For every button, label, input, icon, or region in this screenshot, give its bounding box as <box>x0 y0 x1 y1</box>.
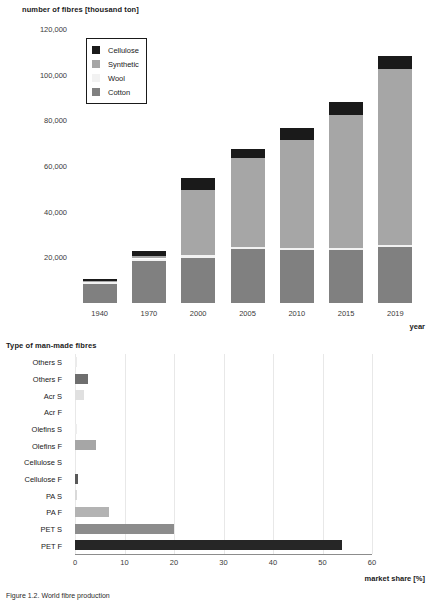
y-tick-label: 20,000 <box>1 253 67 262</box>
bar-segment-wool[interactable] <box>231 247 265 250</box>
bar-segment-cellulose[interactable] <box>378 56 412 69</box>
legend-item-wool: Wool <box>92 71 139 85</box>
bar-row[interactable] <box>75 504 372 521</box>
bar-segment-cotton[interactable] <box>83 284 117 303</box>
bar-row[interactable] <box>75 537 372 554</box>
chart-legend: CelluloseSyntheticWoolCotton <box>86 38 147 104</box>
bar-segment-synthetic[interactable] <box>280 140 314 247</box>
bar-segment-cotton[interactable] <box>181 258 215 303</box>
x-axis-title-market-share: market share [%] <box>365 574 425 583</box>
stacked-bar[interactable] <box>378 56 412 303</box>
bar-pa-s[interactable] <box>75 490 77 500</box>
category-label: Acr S <box>0 391 62 400</box>
bar-segment-cellulose[interactable] <box>231 149 265 158</box>
bar-acr-s[interactable] <box>75 390 84 400</box>
bar-row[interactable] <box>75 521 372 538</box>
bar-segment-cellulose[interactable] <box>280 128 314 141</box>
y-tick-label: 40,000 <box>1 207 67 216</box>
x-tick-label: 2005 <box>225 309 271 318</box>
bar-segment-synthetic[interactable] <box>329 115 363 247</box>
bar-segment-cotton[interactable] <box>329 250 363 303</box>
bar-segment-wool[interactable] <box>181 255 215 258</box>
bar-row[interactable] <box>75 487 372 504</box>
bar-segment-cotton[interactable] <box>132 261 166 303</box>
x-axis-line <box>75 554 372 555</box>
category-label: PA S <box>0 491 62 500</box>
bar-segment-synthetic[interactable] <box>378 69 412 245</box>
bar-row[interactable] <box>75 471 372 488</box>
category-label: Olefins S <box>0 425 62 434</box>
category-label: Acr F <box>0 408 62 417</box>
horizontal-bar-chart-manmade-fibres: Type of man-made fibres market share [%]… <box>0 336 441 586</box>
bar-segment-cotton[interactable] <box>378 247 412 303</box>
stacked-bar[interactable] <box>181 178 215 303</box>
bar-segment-cellulose[interactable] <box>329 102 363 116</box>
x-tick-label: 20 <box>154 558 194 567</box>
bar-row[interactable] <box>75 421 372 438</box>
stacked-bar-chart-fibre-production: number of fibres [thousand ton] 20,00040… <box>0 0 441 336</box>
x-tick-label: 60 <box>352 558 392 567</box>
bar-pet-s[interactable] <box>75 524 174 534</box>
bar-pa-f[interactable] <box>75 507 109 517</box>
bar-segment-wool[interactable] <box>378 245 412 248</box>
legend-item-synthetic: Synthetic <box>92 57 139 71</box>
bar-segment-wool[interactable] <box>83 282 117 285</box>
legend-label: Cellulose <box>108 46 139 55</box>
legend-swatch-icon <box>92 60 100 68</box>
bar-row[interactable] <box>75 404 372 421</box>
bar-olefins-f[interactable] <box>75 440 96 450</box>
stacked-bar[interactable] <box>132 251 166 303</box>
bar-pet-f[interactable] <box>75 540 342 550</box>
bar-segment-cotton[interactable] <box>280 250 314 303</box>
category-label: Cellulose F <box>0 475 62 484</box>
bar-cellulose-f[interactable] <box>75 474 78 484</box>
bar-segment-synthetic[interactable] <box>83 281 117 282</box>
bar-row[interactable] <box>75 354 372 371</box>
bar-olefins-s[interactable] <box>75 424 77 434</box>
bar-segment-cellulose[interactable] <box>181 178 215 189</box>
bar-segment-wool[interactable] <box>280 248 314 251</box>
legend-item-cotton: Cotton <box>92 85 139 99</box>
bar-row[interactable] <box>75 454 372 471</box>
bar-segment-wool[interactable] <box>132 259 166 262</box>
stacked-bar[interactable] <box>83 279 117 303</box>
bar-others-s[interactable] <box>75 357 77 367</box>
chart-title: Type of man-made fibres <box>6 341 97 350</box>
legend-swatch-icon <box>92 88 100 96</box>
x-tick-label: 40 <box>253 558 293 567</box>
x-tick-label: 0 <box>55 558 95 567</box>
category-label: Cellulose S <box>0 458 62 467</box>
bar-row[interactable] <box>75 387 372 404</box>
stacked-bar[interactable] <box>280 128 314 303</box>
legend-swatch-icon <box>92 46 100 54</box>
x-axis-title: year <box>410 322 425 331</box>
x-tick-label: 30 <box>204 558 244 567</box>
bar-segment-synthetic[interactable] <box>181 190 215 255</box>
bar-segment-synthetic[interactable] <box>231 158 265 247</box>
x-tick-label: 1940 <box>77 309 123 318</box>
category-label: PET S <box>0 525 62 534</box>
bar-segment-wool[interactable] <box>329 248 363 251</box>
gridline <box>372 354 373 554</box>
bar-row[interactable] <box>75 371 372 388</box>
x-tick-label: 2010 <box>274 309 320 318</box>
category-label: PET F <box>0 541 62 550</box>
category-label: Olefins F <box>0 441 62 450</box>
stacked-bar[interactable] <box>329 102 363 303</box>
bar-segment-cellulose[interactable] <box>132 251 166 256</box>
bar-segment-cellulose[interactable] <box>83 279 117 281</box>
bar-row[interactable] <box>75 437 372 454</box>
category-label: PA F <box>0 508 62 517</box>
x-tick-label: 2015 <box>323 309 369 318</box>
bar-segment-cotton[interactable] <box>231 249 265 303</box>
x-tick-label: 1970 <box>126 309 172 318</box>
legend-label: Synthetic <box>108 60 139 69</box>
category-label: Others F <box>0 375 62 384</box>
figure-world-fibre-production: number of fibres [thousand ton] 20,00040… <box>0 0 441 601</box>
legend-item-cellulose: Cellulose <box>92 43 139 57</box>
y-tick-label: 100,000 <box>1 70 67 79</box>
stacked-bar[interactable] <box>231 149 265 303</box>
bar-others-f[interactable] <box>75 374 88 384</box>
figure-caption: Figure 1.2. World fibre production <box>6 592 436 601</box>
bar-segment-synthetic[interactable] <box>132 256 166 258</box>
